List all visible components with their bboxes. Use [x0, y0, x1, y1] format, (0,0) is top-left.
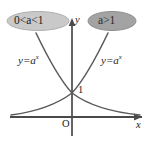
curve-decreasing-exponential — [36, 33, 140, 115]
exponential-function-figure: 0<a<1 a>1 y=ax y=ax y x O 1 — [0, 0, 149, 147]
y-axis-arrowhead — [69, 18, 76, 26]
badge-condition-left — [7, 12, 69, 31]
curve-increasing-exponential — [11, 33, 108, 115]
badge-condition-right — [88, 12, 136, 31]
figure-canvas — [0, 0, 149, 147]
